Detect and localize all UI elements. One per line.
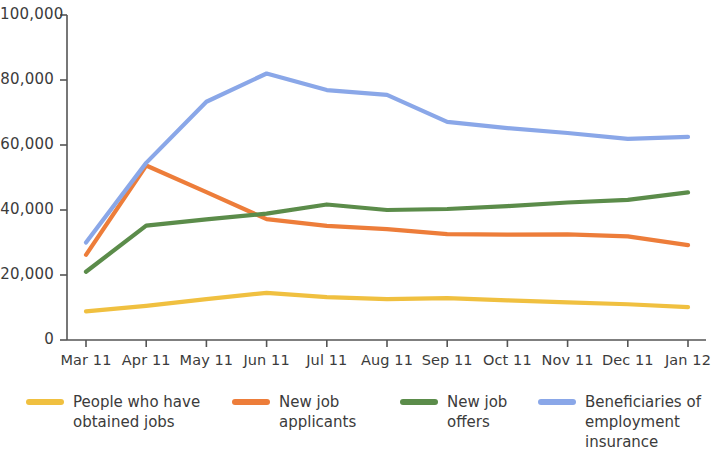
x-axis-tick-label: Jan 12 xyxy=(648,352,718,368)
legend-label: New job offers xyxy=(447,392,507,432)
y-axis-tick-label: 80,000 xyxy=(0,70,54,88)
legend-swatch-icon xyxy=(232,399,270,405)
series-line-3 xyxy=(86,74,688,243)
y-axis-tick-label: 100,000 xyxy=(0,5,54,23)
legend-swatch-icon xyxy=(400,399,438,405)
y-axis-tick-label: 0 xyxy=(0,330,54,348)
legend-label: People who have obtained jobs xyxy=(73,392,200,432)
y-axis-tick-label: 40,000 xyxy=(0,200,54,218)
y-axis-tick-label: 60,000 xyxy=(0,135,54,153)
legend-item-0[interactable]: People who have obtained jobs xyxy=(26,392,206,432)
y-axis-tick-label: 20,000 xyxy=(0,265,54,283)
legend-item-1[interactable]: New job applicants xyxy=(232,392,382,432)
legend-swatch-icon xyxy=(538,399,576,405)
chart-legend: People who have obtained jobsNew job app… xyxy=(0,392,718,468)
plot-area xyxy=(0,0,718,392)
legend-label: Beneficiaries of employment insurance xyxy=(585,392,701,452)
legend-swatch-icon xyxy=(26,399,64,405)
legend-label: New job applicants xyxy=(279,392,356,432)
legend-item-3[interactable]: Beneficiaries of employment insurance xyxy=(538,392,713,452)
series-line-2 xyxy=(86,192,688,271)
line-chart: 020,00040,00060,00080,000100,000 Mar 11A… xyxy=(0,0,718,468)
series-line-0 xyxy=(86,293,688,312)
legend-item-2[interactable]: New job offers xyxy=(400,392,530,432)
